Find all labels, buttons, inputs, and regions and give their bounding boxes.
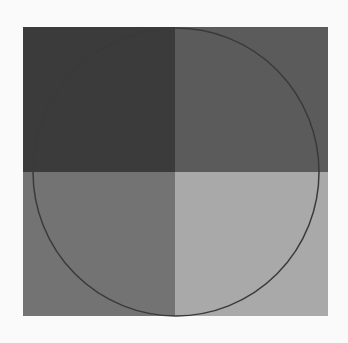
quadrant-top-right bbox=[175, 27, 328, 172]
quadrant-square bbox=[23, 27, 328, 316]
diagram-canvas bbox=[0, 0, 348, 343]
quadrant-bottom-left bbox=[23, 172, 175, 316]
quadrant-top-left bbox=[23, 27, 175, 172]
quadrant-bottom-right bbox=[175, 172, 328, 316]
